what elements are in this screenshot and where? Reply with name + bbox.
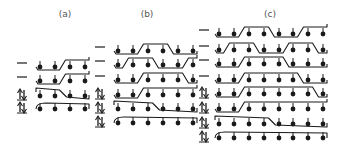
site-dot xyxy=(232,32,237,37)
site-dot xyxy=(321,32,326,37)
site-dot xyxy=(291,107,296,112)
site-dot xyxy=(247,92,252,97)
site-dot xyxy=(291,32,296,37)
site-dot xyxy=(321,107,326,112)
site-dot xyxy=(217,62,222,67)
site-dot xyxy=(161,107,166,112)
row xyxy=(199,57,327,67)
site-dot xyxy=(146,49,151,54)
site-dot xyxy=(247,107,252,112)
row xyxy=(199,24,327,37)
site-dot xyxy=(277,136,282,141)
site-dot xyxy=(116,63,121,68)
spin-pair-icon xyxy=(199,87,209,98)
site-dot xyxy=(191,49,196,54)
site-dot xyxy=(291,92,296,97)
site-dot xyxy=(191,107,196,112)
site-dot xyxy=(291,48,296,53)
site-dot xyxy=(262,48,267,53)
row xyxy=(17,57,89,70)
hopping-path xyxy=(215,99,327,112)
site-dot xyxy=(291,62,296,67)
site-dot xyxy=(161,121,166,126)
site-dot xyxy=(232,107,237,112)
hopping-path xyxy=(36,71,89,84)
site-dot xyxy=(131,63,136,68)
site-dot xyxy=(161,63,166,68)
site-dot xyxy=(277,48,282,53)
hopping-path xyxy=(215,24,327,37)
site-dot xyxy=(232,122,237,127)
site-dot xyxy=(68,107,73,112)
site-dot xyxy=(262,136,267,141)
site-dot xyxy=(262,92,267,97)
hopping-path xyxy=(215,43,327,53)
site-dot xyxy=(217,32,222,37)
site-dot xyxy=(161,93,166,98)
site-dot xyxy=(306,48,311,53)
row xyxy=(17,88,89,100)
site-dot xyxy=(277,92,282,97)
hopping-path xyxy=(36,103,89,109)
site-dot xyxy=(131,49,136,54)
spin-pair-icon xyxy=(95,102,105,113)
panel-content xyxy=(17,24,327,142)
site-dot xyxy=(116,121,121,126)
site-dot xyxy=(306,92,311,97)
site-dot xyxy=(232,92,237,97)
site-dot xyxy=(176,63,181,68)
site-dot xyxy=(191,93,196,98)
row xyxy=(199,87,327,98)
site-dot xyxy=(161,78,166,83)
site-dot xyxy=(176,93,181,98)
spin-pair-icon xyxy=(199,102,209,113)
site-dot xyxy=(277,122,282,127)
site-dot xyxy=(321,48,326,53)
site-dot xyxy=(68,65,73,70)
row xyxy=(95,73,197,83)
site-dot xyxy=(247,32,252,37)
site-dot xyxy=(176,49,181,54)
site-dot xyxy=(277,32,282,37)
site-dot xyxy=(232,62,237,67)
site-dot xyxy=(321,62,326,67)
row xyxy=(95,85,197,99)
site-dot xyxy=(146,63,151,68)
site-dot xyxy=(262,32,267,37)
site-dot xyxy=(262,62,267,67)
row xyxy=(17,71,89,84)
site-dot xyxy=(232,78,237,83)
site-dot xyxy=(217,107,222,112)
site-dot xyxy=(217,48,222,53)
site-dot xyxy=(306,78,311,83)
site-dot xyxy=(116,78,121,83)
row xyxy=(95,116,197,127)
site-dot xyxy=(291,122,296,127)
hopping-path xyxy=(114,73,197,83)
site-dot xyxy=(146,78,151,83)
site-dot xyxy=(262,107,267,112)
row xyxy=(95,55,197,68)
hopping-path xyxy=(215,116,327,127)
row xyxy=(95,101,197,113)
site-dot xyxy=(53,94,58,99)
panel-labels: (a)(b)(c) xyxy=(59,9,276,19)
site-dot xyxy=(83,65,88,70)
site-dot xyxy=(53,79,58,84)
site-dot xyxy=(38,65,43,70)
site-dot xyxy=(68,94,73,99)
site-dot xyxy=(146,121,151,126)
panel-a xyxy=(17,57,89,113)
site-dot xyxy=(53,65,58,70)
site-dot xyxy=(321,92,326,97)
site-dot xyxy=(116,93,121,98)
site-dot xyxy=(38,79,43,84)
site-dot xyxy=(232,48,237,53)
site-dot xyxy=(38,94,43,99)
site-dot xyxy=(146,107,151,112)
site-dot xyxy=(247,122,252,127)
site-dot xyxy=(131,78,136,83)
spin-pair-icon xyxy=(95,88,105,99)
row xyxy=(95,44,197,54)
row xyxy=(199,131,327,142)
